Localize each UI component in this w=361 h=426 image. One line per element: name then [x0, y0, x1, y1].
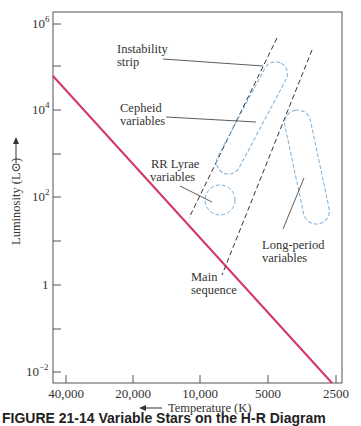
svg-text:Luminosity (L⊙): Luminosity (L⊙)	[9, 158, 23, 245]
long-period-label-2: variables	[262, 251, 307, 265]
y-tick-1e-2: 10−2	[26, 362, 49, 379]
x-axis-ticks	[66, 375, 336, 383]
cepheid-label-2: variables	[120, 114, 165, 128]
y-tick-1: 1	[42, 277, 49, 292]
main-sequence-line	[53, 76, 332, 383]
long-period-label-1: Long-period	[262, 238, 325, 252]
main-sequence-label-1: Main	[191, 270, 218, 284]
x-tick-20000: 20,000	[115, 386, 151, 401]
x-tick-40000: 40,000	[48, 386, 84, 401]
rr-lyrae-label-2: variables	[150, 170, 195, 184]
y-axis-label: Luminosity (L⊙)	[9, 137, 23, 245]
main-sequence-label-2: sequence	[191, 283, 237, 297]
instability-strip-label-2: strip	[117, 55, 139, 69]
figure-caption: FIGURE 21-14 Variable Stars on the H-R D…	[2, 410, 326, 426]
cepheid-label-1: Cepheid	[120, 101, 162, 115]
cepheid-leader	[166, 117, 256, 122]
long-period-region	[282, 108, 332, 227]
cepheid-region	[212, 58, 291, 179]
x-tick-2500: 2500	[323, 386, 349, 401]
long-period-leader	[283, 178, 304, 229]
instability-strip-label-1: Instability	[117, 42, 168, 56]
y-tick-1e6: 106	[32, 14, 50, 31]
rr-lyrae-label-1: RR Lyrae	[151, 157, 200, 171]
x-tick-10000: 10,000	[182, 386, 218, 401]
rr-lyrae-region	[205, 185, 235, 215]
instability-leader	[163, 59, 263, 66]
y-tick-1e2: 102	[32, 187, 50, 204]
x-tick-5000: 5000	[255, 386, 281, 401]
y-tick-1e4: 104	[32, 100, 50, 117]
plot-frame	[53, 12, 342, 383]
rr-lyrae-leader	[180, 186, 212, 202]
hr-diagram: 106 104 102 1 10−2 Luminosity (L⊙) 40,00…	[0, 0, 361, 426]
